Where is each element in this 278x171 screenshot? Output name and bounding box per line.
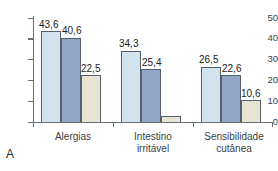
bar-label-sensibilidade-cutanea-series-2: 22,6 [222, 64, 241, 74]
bar-alergias-series-2 [61, 38, 81, 122]
bar-label-alergias-series-2: 40,6 [62, 26, 81, 36]
y-tick-20 [28, 80, 33, 81]
x-tick-start [33, 122, 34, 127]
y-tick-label-50: 50 [254, 13, 278, 23]
bar-label-intestino-irritavel-series-1: 34,3 [119, 39, 138, 49]
bar-sensibilidade-cutanea-series-2 [221, 75, 241, 122]
y-tick-label-40: 40 [254, 34, 278, 44]
y-tick-30 [28, 59, 33, 60]
x-tick-end [272, 122, 273, 127]
bar-sensibilidade-cutanea-series-3 [241, 100, 261, 122]
bar-sensibilidade-cutanea-series-1 [201, 67, 221, 122]
bar-label-alergias-series-3: 22,5 [81, 64, 100, 74]
bar-chart-panel-a: 50 40 30 20 10 0 43,6 40,6 22,5 34,3 25,… [0, 0, 278, 171]
y-tick-40 [28, 38, 33, 39]
bar-alergias-series-1 [41, 31, 61, 122]
x-tick-group-divider-2 [193, 122, 194, 127]
y-tick-label-20: 20 [254, 75, 278, 85]
bar-label-intestino-irritavel-series-2: 25,4 [142, 58, 161, 68]
bar-intestino-irritavel-series-3 [161, 116, 181, 122]
bar-intestino-irritavel-series-1 [121, 51, 141, 122]
bar-intestino-irritavel-series-2 [141, 69, 161, 122]
x-axis-category-label-sensibilidade-cutanea: Sensibilidade cutânea [192, 131, 276, 154]
y-tick-label-30: 30 [254, 54, 278, 64]
y-axis-line [33, 16, 34, 123]
bar-label-alergias-series-1: 43,6 [39, 20, 58, 30]
bar-alergias-series-3 [81, 75, 101, 122]
y-tick-10 [28, 101, 33, 102]
bar-label-sensibilidade-cutanea-series-3: 10,6 [241, 89, 260, 99]
x-axis-category-label-intestino-irritavel: Intestino irritável [113, 131, 193, 154]
x-tick-group-divider-1 [113, 122, 114, 127]
panel-letter: A [6, 148, 14, 160]
bar-label-sensibilidade-cutanea-series-1: 26,5 [199, 55, 218, 65]
x-axis-category-label-alergias: Alergias [33, 131, 113, 143]
y-tick-50 [28, 18, 33, 19]
